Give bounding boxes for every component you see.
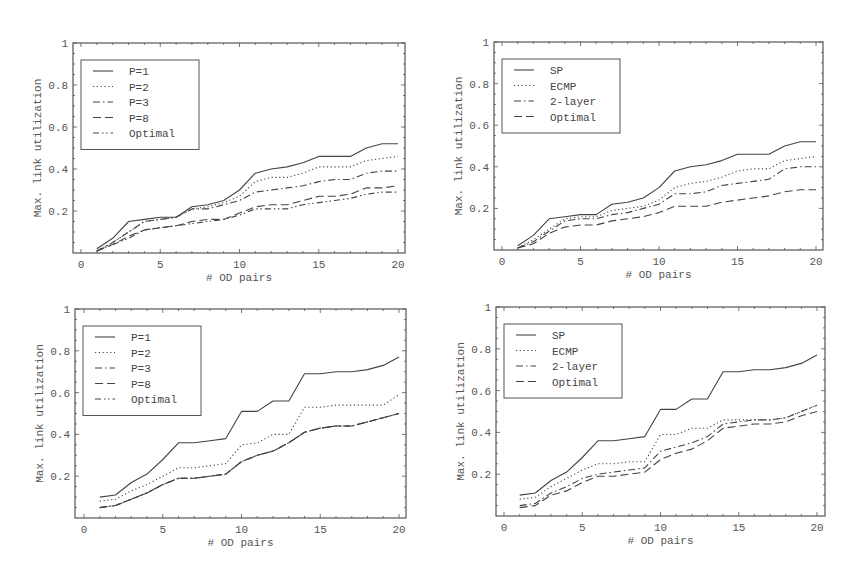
legend-label: ECMP (552, 346, 579, 358)
series-line-p-2 (97, 156, 398, 251)
y-tick-label: 0.4 (48, 164, 68, 176)
series-line-p-8 (97, 186, 398, 251)
y-tick-label: 1 (61, 38, 68, 50)
legend-label: Optimal (131, 394, 177, 406)
x-tick-label: 0 (81, 524, 88, 536)
series-line-p-3 (100, 414, 399, 508)
legend-label: P=3 (129, 97, 149, 109)
x-tick-label: 10 (235, 524, 248, 536)
y-tick-label: 0.4 (50, 429, 70, 441)
y-tick-label: 0.2 (50, 471, 70, 483)
y-tick-label: 0.2 (469, 203, 489, 215)
y-axis-label: Max. link utilization (32, 79, 44, 218)
series-line-2-layer (520, 405, 817, 505)
series-line-ecmp (518, 156, 816, 248)
y-tick-label: 0.6 (48, 122, 68, 134)
y-tick-label: 1 (63, 304, 70, 316)
x-tick-label: 20 (809, 256, 822, 268)
series-line-p-3 (97, 171, 398, 251)
x-tick-label: 10 (652, 256, 665, 268)
chart-top-right: 051015200.20.40.60.81# OD pairsMax. link… (430, 0, 857, 286)
chart-bottom-right: 051015200.20.40.60.81# OD pairsMax. link… (430, 286, 857, 572)
y-tick-label: 0.6 (50, 388, 70, 400)
y-tick-label: 0.4 (469, 162, 489, 174)
legend: SPECMP2-layerOptimal (502, 59, 620, 133)
x-tick-label: 5 (159, 524, 166, 536)
legend-label: Optimal (552, 377, 598, 389)
legend-label: SP (550, 65, 564, 77)
y-tick-label: 0.8 (471, 344, 491, 356)
x-axis-label: # OD pairs (206, 272, 272, 284)
y-tick-label: 0.4 (471, 427, 491, 439)
series-line-optimal (520, 412, 817, 508)
legend: P=1P=2P=3P=8Optimal (81, 60, 199, 150)
series-line-ecmp (520, 405, 817, 499)
y-axis-label: Max. link utilization (453, 77, 465, 216)
y-tick-label: 0.8 (50, 346, 70, 358)
x-tick-label: 15 (312, 259, 325, 271)
x-tick-label: 15 (732, 522, 745, 534)
legend-label: P=2 (129, 82, 149, 94)
y-axis-label: Max. link utilization (455, 342, 467, 481)
x-tick-label: 20 (392, 524, 405, 536)
x-tick-label: 5 (577, 256, 584, 268)
y-tick-label: 0.2 (471, 469, 491, 481)
y-axis-label: Max. link utilization (34, 344, 46, 483)
legend-label: P=1 (129, 66, 149, 78)
chart-top-left: 051015200.20.40.60.81# OD pairsMax. link… (0, 0, 430, 286)
legend: SPECMP2-layerOptimal (504, 324, 622, 398)
y-tick-label: 0.6 (471, 386, 491, 398)
x-axis-label: # OD pairs (625, 269, 691, 281)
y-tick-label: 1 (484, 302, 491, 314)
x-tick-label: 0 (78, 259, 85, 271)
legend-label: Optimal (550, 112, 596, 124)
legend: P=1P=2P=3P=8Optimal (83, 326, 201, 416)
x-tick-label: 0 (499, 256, 506, 268)
legend-label: P=2 (131, 348, 151, 360)
x-axis-label: # OD pairs (627, 535, 693, 547)
legend-label: Optimal (129, 128, 175, 140)
x-tick-label: 20 (810, 522, 823, 534)
legend-label: ECMP (550, 81, 577, 93)
x-tick-label: 15 (314, 524, 327, 536)
y-tick-label: 0.6 (469, 120, 489, 132)
chart-bottom-left: 051015200.20.40.60.81# OD pairsMax. link… (0, 286, 430, 572)
legend-label: P=8 (129, 113, 149, 125)
x-tick-label: 5 (157, 259, 164, 271)
x-tick-label: 15 (731, 256, 744, 268)
x-tick-label: 20 (391, 259, 404, 271)
y-tick-label: 0.8 (469, 79, 489, 91)
legend-label: 2-layer (552, 361, 598, 373)
x-tick-label: 5 (579, 522, 586, 534)
x-tick-label: 10 (654, 522, 667, 534)
series-line-sp (518, 142, 816, 246)
legend-label: P=3 (131, 363, 151, 375)
x-axis-label: # OD pairs (207, 537, 273, 549)
legend-label: 2-layer (550, 96, 596, 108)
legend-label: SP (552, 330, 566, 342)
y-tick-label: 1 (482, 37, 489, 49)
y-tick-label: 0.2 (48, 206, 68, 218)
y-tick-label: 0.8 (48, 80, 68, 92)
series-line-optimal (97, 192, 398, 251)
legend-label: P=1 (131, 332, 151, 344)
x-tick-label: 0 (501, 522, 508, 534)
legend-label: P=8 (131, 379, 151, 391)
x-tick-label: 10 (233, 259, 246, 271)
